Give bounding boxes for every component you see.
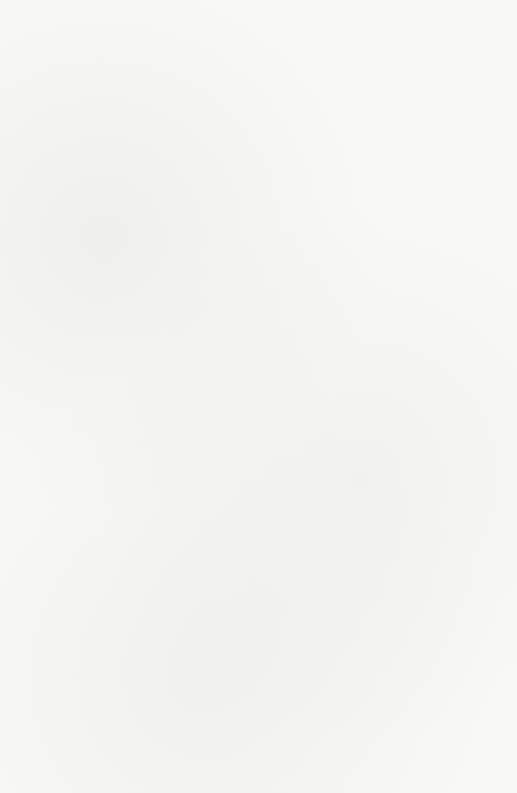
lined-paper [0, 0, 517, 793]
